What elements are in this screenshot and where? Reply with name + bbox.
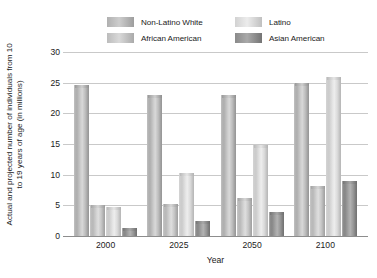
legend-item-label: Asian American bbox=[269, 34, 325, 43]
bar bbox=[294, 83, 309, 236]
bar bbox=[179, 173, 194, 236]
bar bbox=[253, 145, 268, 236]
bar-top-cap bbox=[180, 173, 194, 176]
bar-top-cap bbox=[107, 207, 121, 210]
x-axis-tick-label: 2050 bbox=[217, 240, 287, 250]
x-axis-baseline bbox=[63, 236, 368, 237]
bar-top-cap bbox=[270, 212, 284, 215]
bar bbox=[342, 181, 357, 236]
chart-legend: Non-Latino WhiteLatinoAfrican AmericanAs… bbox=[107, 14, 369, 46]
legend-item: Latino bbox=[235, 14, 369, 30]
bar bbox=[74, 85, 89, 236]
y-axis-tick-label: 0 bbox=[55, 231, 60, 241]
bar bbox=[147, 95, 162, 236]
bar-top-cap bbox=[343, 181, 357, 184]
y-axis-tick-label: 5 bbox=[55, 200, 60, 210]
y-axis-tick-label: 15 bbox=[50, 139, 60, 149]
bar-top-cap bbox=[311, 186, 325, 189]
x-axis-tick-label: 2000 bbox=[71, 240, 141, 250]
x-axis-ticks: 2000202520502100 bbox=[63, 240, 368, 250]
bar-group bbox=[74, 52, 137, 236]
y-axis-tick-label: 25 bbox=[50, 78, 60, 88]
y-axis-tick-label: 10 bbox=[50, 170, 60, 180]
legend-item: Asian American bbox=[235, 30, 369, 46]
y-axis-title: Actual and projected number of individua… bbox=[5, 41, 26, 227]
bar-top-cap bbox=[91, 205, 105, 208]
x-axis-tick-label: 2025 bbox=[144, 240, 214, 250]
bar-group bbox=[294, 52, 357, 236]
legend-item: Non-Latino White bbox=[107, 14, 235, 30]
bar-top-cap bbox=[254, 145, 268, 148]
bar bbox=[163, 204, 178, 237]
legend-swatch-icon bbox=[235, 33, 262, 43]
plot-area: Actual and projected number of individua… bbox=[0, 52, 377, 278]
bar-top-cap bbox=[222, 95, 236, 98]
legend-swatch-icon bbox=[235, 17, 262, 27]
bar bbox=[90, 205, 105, 236]
y-axis-tick-label: 30 bbox=[50, 47, 60, 57]
bar bbox=[269, 212, 284, 236]
bar bbox=[122, 228, 137, 236]
legend-item-label: Non-Latino White bbox=[141, 18, 203, 27]
bar-chart: Non-Latino WhiteLatinoAfrican AmericanAs… bbox=[0, 0, 377, 278]
bar-top-cap bbox=[295, 83, 309, 86]
y-axis-tick-label: 20 bbox=[50, 108, 60, 118]
legend-item: African American bbox=[107, 30, 235, 46]
bar bbox=[326, 77, 341, 236]
legend-swatch-icon bbox=[107, 33, 134, 43]
bar bbox=[221, 95, 236, 236]
bar-group bbox=[147, 52, 210, 236]
bar-top-cap bbox=[238, 198, 252, 201]
legend-item-label: Latino bbox=[269, 18, 291, 27]
plot-canvas bbox=[63, 52, 368, 236]
bar-group bbox=[221, 52, 284, 236]
bar-top-cap bbox=[75, 85, 89, 88]
bar-top-cap bbox=[196, 221, 210, 224]
bar bbox=[195, 221, 210, 236]
y-axis-ticks: 051015202530 bbox=[40, 52, 62, 236]
x-axis-tick-label: 2100 bbox=[290, 240, 360, 250]
legend-item-label: African American bbox=[141, 34, 201, 43]
bar-groups bbox=[63, 52, 368, 236]
bar bbox=[310, 186, 325, 236]
x-axis-title: Year bbox=[63, 255, 368, 265]
bar-top-cap bbox=[327, 77, 341, 80]
bar bbox=[106, 207, 121, 236]
bar bbox=[237, 198, 252, 236]
legend-swatch-icon bbox=[107, 17, 134, 27]
bar-top-cap bbox=[148, 95, 162, 98]
bar-top-cap bbox=[164, 204, 178, 207]
bar-top-cap bbox=[123, 228, 137, 231]
